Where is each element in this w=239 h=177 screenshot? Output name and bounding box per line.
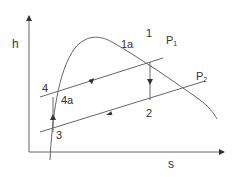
- arrow-icon: [106, 111, 113, 117]
- point-3-label: 3: [56, 130, 62, 141]
- point-1a-label: 1a: [121, 39, 133, 50]
- point-4-label: 4: [42, 83, 48, 94]
- isobar-p1-subscript: 1: [173, 40, 177, 47]
- diagram-graphics: [0, 0, 239, 177]
- saturation-dome-curve: [50, 37, 217, 160]
- isobar-p2-subscript: 2: [203, 76, 207, 83]
- isobar-p1-label: P1: [166, 35, 177, 47]
- isobar-p1: [40, 58, 163, 97]
- arrow-icon: [147, 79, 153, 85]
- y-axis-label: h: [12, 38, 19, 50]
- arrow-icon: [50, 114, 56, 120]
- isobar-p2-label: P2: [196, 71, 207, 83]
- hs-diagram: h s P1 P2 1 1a 2 3 4 4a: [0, 0, 239, 177]
- point-2-label: 2: [146, 108, 152, 119]
- point-4a-label: 4a: [61, 95, 73, 106]
- point-1-label: 1: [146, 28, 152, 39]
- x-axis-label: s: [168, 158, 174, 170]
